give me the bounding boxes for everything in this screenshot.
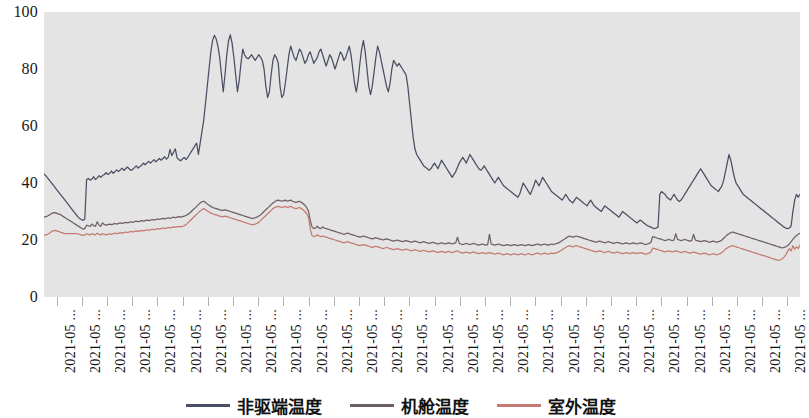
- legend-item[interactable]: 机舱温度: [350, 393, 469, 418]
- x-tick-mark: [787, 297, 788, 306]
- series-line: [44, 206, 800, 260]
- x-tick-mark: [535, 297, 536, 306]
- x-tick-mark: [409, 297, 410, 306]
- x-tick-label: 2021-05 ...: [340, 309, 356, 373]
- y-tick-label: 20: [22, 231, 38, 249]
- x-tick-label: 2021-05 ...: [793, 309, 809, 373]
- x-tick-mark: [183, 297, 184, 306]
- legend-swatch-icon: [186, 404, 230, 407]
- legend-item[interactable]: 室外温度: [497, 393, 616, 418]
- x-tick-mark: [132, 297, 133, 306]
- x-axis: 2021-05 ...2021-05 ...2021-05 ...2021-05…: [44, 297, 800, 392]
- x-tick-mark: [157, 297, 158, 306]
- x-tick-mark: [258, 297, 259, 306]
- x-tick-label: 2021-05 ...: [642, 309, 658, 373]
- y-tick-label: 0: [30, 288, 38, 306]
- x-tick-mark: [57, 297, 58, 306]
- x-tick-mark: [586, 297, 587, 306]
- x-tick-mark: [636, 297, 637, 306]
- x-tick-mark: [737, 297, 738, 306]
- x-tick-mark: [687, 297, 688, 306]
- x-tick-label: 2021-05 ...: [567, 309, 583, 373]
- x-tick-mark: [762, 297, 763, 306]
- legend-label: 机舱温度: [401, 393, 469, 418]
- x-tick-label: 2021-05 ...: [163, 309, 179, 373]
- x-tick-mark: [712, 297, 713, 306]
- x-tick-mark: [384, 297, 385, 306]
- x-tick-mark: [283, 297, 284, 306]
- x-tick-mark: [460, 297, 461, 306]
- x-tick-mark: [435, 297, 436, 306]
- x-tick-mark: [233, 297, 234, 306]
- legend-swatch-icon: [497, 404, 541, 407]
- x-tick-label: 2021-05 ...: [768, 309, 784, 373]
- legend-item[interactable]: 非驱端温度: [186, 393, 322, 418]
- x-tick-label: 2021-05 ...: [63, 309, 79, 373]
- x-tick-label: 2021-05 ...: [466, 309, 482, 373]
- x-tick-label: 2021-05 ...: [491, 309, 507, 373]
- x-tick-label: 2021-05 ...: [289, 309, 305, 373]
- y-tick-label: 60: [22, 117, 38, 135]
- x-tick-mark: [82, 297, 83, 306]
- x-tick-mark: [107, 297, 108, 306]
- x-tick-mark: [661, 297, 662, 306]
- x-tick-label: 2021-05 ...: [315, 309, 331, 373]
- x-tick-label: 2021-05 ...: [214, 309, 230, 373]
- x-tick-label: 2021-05 ...: [415, 309, 431, 373]
- chart-legend: 非驱端温度机舱温度室外温度: [0, 393, 801, 418]
- x-tick-label: 2021-05 ...: [88, 309, 104, 373]
- plot-lines-svg: [44, 12, 800, 297]
- x-tick-mark: [309, 297, 310, 306]
- x-tick-mark: [208, 297, 209, 306]
- x-tick-label: 2021-05 ...: [516, 309, 532, 373]
- x-tick-label: 2021-05 ...: [617, 309, 633, 373]
- x-tick-label: 2021-05 ...: [365, 309, 381, 373]
- y-tick-label: 80: [22, 60, 38, 78]
- x-tick-label: 2021-05 ...: [541, 309, 557, 373]
- x-tick-label: 2021-05 ...: [113, 309, 129, 373]
- x-tick-label: 2021-05 ...: [264, 309, 280, 373]
- x-tick-label: 2021-05 ...: [718, 309, 734, 373]
- legend-label: 非驱端温度: [237, 393, 322, 418]
- x-tick-label: 2021-05 ...: [693, 309, 709, 373]
- x-tick-mark: [359, 297, 360, 306]
- x-tick-label: 2021-05 ...: [667, 309, 683, 373]
- x-tick-label: 2021-05 ...: [441, 309, 457, 373]
- series-line: [44, 200, 800, 248]
- x-tick-mark: [611, 297, 612, 306]
- legend-swatch-icon: [350, 404, 394, 407]
- x-tick-label: 2021-05 ...: [592, 309, 608, 373]
- series-line: [44, 35, 800, 229]
- x-tick-label: 2021-05 ...: [390, 309, 406, 373]
- x-tick-label: 2021-05 ...: [189, 309, 205, 373]
- x-tick-label: 2021-05 ...: [743, 309, 759, 373]
- plot-area: [44, 12, 800, 297]
- y-tick-label: 100: [13, 3, 38, 21]
- legend-label: 室外温度: [548, 393, 616, 418]
- x-tick-mark: [485, 297, 486, 306]
- x-tick-mark: [510, 297, 511, 306]
- x-tick-mark: [334, 297, 335, 306]
- x-tick-mark: [561, 297, 562, 306]
- x-tick-label: 2021-05 ...: [239, 309, 255, 373]
- y-tick-label: 40: [22, 174, 38, 192]
- y-axis: 020406080100: [0, 0, 44, 300]
- x-tick-label: 2021-05 ...: [138, 309, 154, 373]
